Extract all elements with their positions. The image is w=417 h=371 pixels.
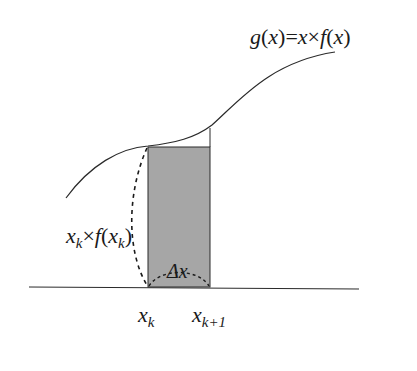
curve-label: g(x)=x×f(x) bbox=[250, 24, 351, 49]
riemann-strip-diagram: g(x)=x×f(x) xk×f(xk) Δx xk xk+1 bbox=[0, 0, 417, 371]
height-brace-dashed bbox=[132, 148, 148, 287]
width-label: Δx bbox=[166, 260, 188, 282]
axis-label-xk1: xk+1 bbox=[191, 302, 226, 330]
axis-label-xk: xk bbox=[137, 302, 155, 330]
height-label: xk×f(xk) bbox=[65, 223, 132, 251]
